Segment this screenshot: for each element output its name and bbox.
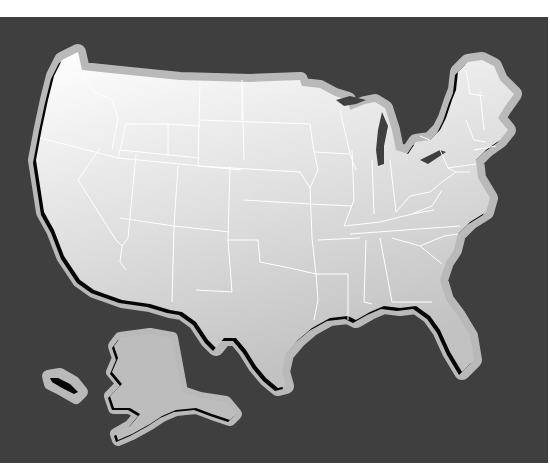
us-map	[0, 0, 550, 473]
